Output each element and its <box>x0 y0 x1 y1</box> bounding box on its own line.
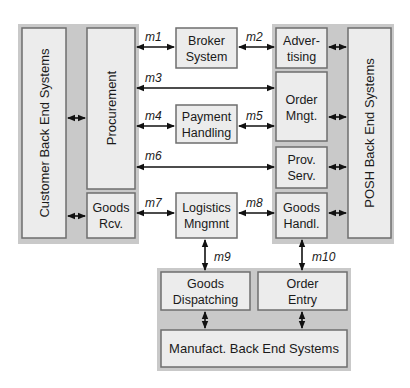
logistics-label-2: Mngmnt <box>184 217 230 231</box>
posh-back-end-label: POSH Back End Systems <box>362 58 377 208</box>
message-label-m4: m4 <box>145 109 162 123</box>
message-label-m8: m8 <box>246 196 263 210</box>
manufact-back-end-label: Manufact. Back End Systems <box>169 341 339 356</box>
message-label-m7: m7 <box>145 196 163 210</box>
message-label-m3: m3 <box>145 71 162 85</box>
message-label-m1: m1 <box>145 30 162 44</box>
manufact-back-end-systems-box: Manufact. Back End Systems <box>161 330 347 367</box>
payment-label-2: Handling <box>182 126 231 140</box>
advertising-label-1: Adver- <box>283 34 320 48</box>
goods-rcv-label-1: Goods <box>93 201 130 215</box>
goods-rcv-label-2: Rcv. <box>99 217 123 231</box>
payment-handling-box: Payment Handling <box>176 105 237 143</box>
goods-dispatching-box: Goods Dispatching <box>161 272 250 310</box>
prov-serv-label-2: Serv. <box>287 169 315 183</box>
goods-handl-box: Goods Handl. <box>276 193 327 238</box>
order-mngt-box: Order Mngt. <box>276 72 327 141</box>
order-mngt-label-1: Order <box>286 93 318 107</box>
goods-handl-label-1: Goods <box>283 201 320 215</box>
message-label-m6: m6 <box>145 149 162 163</box>
broker-system-box: Broker System <box>176 28 237 68</box>
message-label-m9: m9 <box>214 250 231 264</box>
order-entry-label-2: Entry <box>288 293 318 307</box>
procurement-box: Procurement <box>87 28 135 189</box>
message-label-m2: m2 <box>246 30 263 44</box>
order-mngt-label-2: Mngt. <box>286 109 317 123</box>
posh-back-end-systems-box: POSH Back End Systems <box>348 28 391 238</box>
order-entry-box: Order Entry <box>258 272 347 310</box>
goods-rcv-box: Goods Rcv. <box>87 193 135 238</box>
message-label-m10: m10 <box>312 250 336 264</box>
goods-handl-label-2: Handl. <box>283 217 319 231</box>
architecture-diagram: Customer Back End Systems Procurement Go… <box>0 0 410 388</box>
goods-dispatching-label-2: Dispatching <box>173 293 238 307</box>
customer-back-end-label: Customer Back End Systems <box>37 48 52 218</box>
customer-back-end-systems-box: Customer Back End Systems <box>22 28 66 238</box>
advertising-label-2: tising <box>287 50 316 64</box>
prov-serv-box: Prov. Serv. <box>276 147 327 188</box>
logistics-label-1: Logistics <box>182 201 231 215</box>
order-entry-label-1: Order <box>287 277 319 291</box>
broker-label-1: Broker <box>188 34 225 48</box>
payment-label-1: Payment <box>182 110 232 124</box>
advertising-box: Adver- tising <box>276 28 327 68</box>
goods-dispatching-label-1: Goods <box>187 277 224 291</box>
message-label-m5: m5 <box>246 109 263 123</box>
procurement-label: Procurement <box>104 70 119 145</box>
logistics-mngmnt-box: Logistics Mngmnt <box>176 193 237 238</box>
prov-serv-label-1: Prov. <box>287 153 315 167</box>
broker-label-2: System <box>186 50 228 64</box>
